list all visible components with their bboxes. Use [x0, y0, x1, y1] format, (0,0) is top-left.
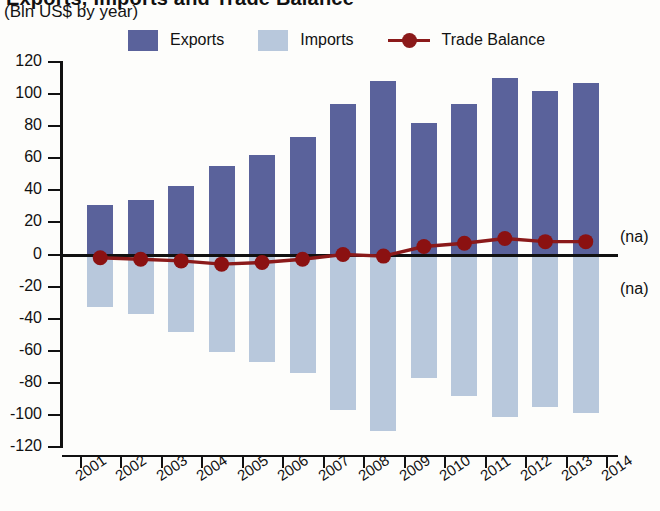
legend-item-exports[interactable]: Exports [128, 30, 224, 51]
legend-swatch-exports [128, 30, 158, 51]
y-axis-label: 20 [0, 212, 42, 230]
trade-balance-marker [416, 239, 431, 254]
y-axis-label: 0 [0, 245, 42, 263]
legend-swatch-imports [258, 30, 288, 51]
trade-balance-marker [376, 249, 391, 264]
trade-balance-marker [578, 234, 593, 249]
y-axis-label: -20 [0, 277, 42, 295]
legend-item-imports[interactable]: Imports [258, 30, 353, 51]
y-axis-label: 80 [0, 116, 42, 134]
trade-balance-line [62, 62, 618, 447]
trade-balance-marker [336, 247, 351, 262]
na-annotation: (na) [620, 228, 648, 246]
legend-label-exports: Exports [170, 31, 224, 49]
trade-balance-marker [174, 253, 189, 268]
y-axis-label: -100 [0, 405, 42, 423]
legend-marker-icon [402, 33, 417, 48]
y-axis-label: 40 [0, 180, 42, 198]
chart-canvas: Exports, Imports and Trade Balance (Bln … [0, 0, 660, 511]
trade-balance-marker [93, 250, 108, 265]
trade-balance-marker [214, 257, 229, 272]
legend-label-trade-balance: Trade Balance [442, 31, 545, 49]
chart-legend: Exports Imports Trade Balance [128, 28, 579, 52]
y-axis-label: -60 [0, 341, 42, 359]
trade-balance-marker [133, 252, 148, 267]
trade-balance-marker [497, 231, 512, 246]
y-axis-label: -80 [0, 373, 42, 391]
trade-balance-marker [295, 252, 310, 267]
chart-subtitle: (Bln US$ by year) [4, 2, 138, 22]
y-axis-label: -40 [0, 309, 42, 327]
trade-balance-marker [538, 234, 553, 249]
y-axis-label: 100 [0, 84, 42, 102]
legend-item-trade-balance[interactable]: Trade Balance [388, 30, 545, 50]
trade-balance-marker [255, 255, 270, 270]
legend-label-imports: Imports [300, 31, 353, 49]
plot-area [62, 62, 618, 447]
y-axis-label: -120 [0, 437, 42, 455]
na-annotation: (na) [620, 280, 648, 298]
legend-swatch-trade-balance [388, 30, 430, 50]
trade-balance-marker [457, 236, 472, 251]
y-axis-label: 120 [0, 52, 42, 70]
y-axis-label: 60 [0, 148, 42, 166]
